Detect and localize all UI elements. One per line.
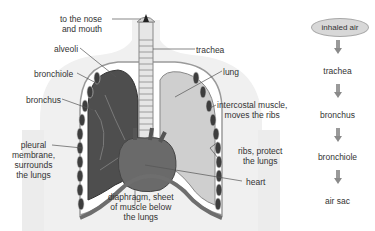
down-arrow-icon: [335, 40, 341, 54]
down-arrow-icon: [335, 84, 341, 98]
label-intercostal-muscle: intercostal muscle, moves the ribs: [217, 100, 287, 120]
label-ribs: ribs, protect the lungs: [238, 146, 282, 166]
flow-start-inhaled-air: inhaled air: [311, 18, 369, 37]
flow-step-bronchiole: bronchiole: [300, 152, 375, 162]
label-heart: heart: [246, 177, 265, 187]
down-arrow-icon: [335, 128, 341, 142]
label-diaphragm: diaphragm, sheet of muscle below the lun…: [108, 192, 174, 222]
label-trachea: trachea: [196, 45, 224, 55]
label-nose-mouth: to the nose and mouth: [60, 14, 102, 34]
flow-step-air-sac: air sac: [300, 196, 375, 206]
flow-step-bronchus: bronchus: [300, 110, 375, 120]
flow-step-trachea: trachea: [300, 66, 375, 76]
label-lung: lung: [223, 67, 239, 77]
breathing-flowchart: inhaled air trachea bronchus bronchiole …: [300, 0, 375, 231]
label-pleural-membrane: pleural membrane, surrounds the lungs: [12, 140, 55, 180]
label-alveoli: alveoli: [54, 44, 78, 54]
down-arrow-icon: [335, 170, 341, 184]
label-bronchus: bronchus: [26, 95, 61, 105]
label-bronchiole: bronchiole: [34, 69, 73, 79]
